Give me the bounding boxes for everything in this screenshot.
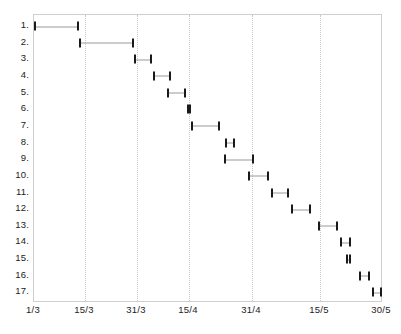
y-axis-tick-label: 14. (0, 236, 29, 246)
interval-spine (79, 43, 134, 44)
y-axis-tick-label: 17. (0, 286, 29, 296)
interval-start-cap (191, 121, 193, 130)
interval-bar[interactable] (191, 121, 220, 130)
interval-spine (271, 193, 289, 194)
interval-start-cap (225, 138, 227, 147)
y-axis: 1.2.3.4.5.6.7.8.9.10.11.12.13.14.15.16.1… (0, 14, 31, 302)
gantt-chart: 1.2.3.4.5.6.7.8.9.10.11.12.13.14.15.16.1… (0, 0, 401, 334)
interval-bar[interactable] (34, 22, 79, 31)
interval-end-cap (218, 121, 220, 130)
y-axis-tick-label: 13. (0, 220, 29, 230)
interval-start-cap (134, 55, 136, 64)
y-axis-tick-label: 7. (0, 120, 29, 130)
interval-bar[interactable] (372, 288, 382, 297)
x-axis-tick-label: 15/4 (178, 304, 197, 315)
interval-bar[interactable] (248, 171, 269, 180)
interval-bar[interactable] (346, 255, 351, 264)
interval-start-cap (187, 105, 189, 114)
x-axis-tick-label: 15/5 (309, 304, 328, 315)
interval-start-cap (318, 221, 320, 230)
x-axis: 1/315/331/315/431/415/530/5 (0, 304, 401, 320)
interval-start-cap (153, 71, 155, 80)
interval-start-cap (291, 205, 293, 214)
interval-end-cap (169, 71, 171, 80)
interval-spine (167, 93, 186, 94)
y-axis-tick-label: 11. (0, 187, 29, 197)
plot-area (33, 14, 382, 302)
interval-start-cap (224, 155, 226, 164)
interval-start-cap (340, 238, 342, 247)
interval-spine (224, 159, 254, 160)
interval-bar[interactable] (359, 271, 370, 280)
interval-end-cap (150, 55, 152, 64)
x-axis-tick-label: 30/5 (371, 304, 390, 315)
interval-end-cap (184, 88, 186, 97)
y-axis-tick-label: 6. (0, 103, 29, 113)
interval-start-cap (346, 255, 348, 264)
interval-start-cap (248, 171, 250, 180)
interval-end-cap (368, 271, 370, 280)
interval-bar[interactable] (153, 71, 171, 80)
interval-end-cap (349, 255, 351, 264)
interval-end-cap (349, 238, 351, 247)
interval-bar[interactable] (271, 188, 289, 197)
interval-start-cap (79, 38, 81, 47)
interval-bar[interactable] (318, 221, 338, 230)
interval-bar[interactable] (224, 155, 254, 164)
interval-bar[interactable] (225, 138, 235, 147)
y-axis-tick-label: 10. (0, 170, 29, 180)
interval-spine (318, 226, 338, 227)
interval-spine (291, 209, 311, 210)
y-axis-tick-label: 4. (0, 70, 29, 80)
interval-start-cap (359, 271, 361, 280)
y-axis-tick-label: 9. (0, 153, 29, 163)
interval-end-cap (132, 38, 134, 47)
interval-end-cap (252, 155, 254, 164)
interval-bar[interactable] (340, 238, 351, 247)
interval-end-cap (233, 138, 235, 147)
y-axis-tick-label: 12. (0, 203, 29, 213)
y-axis-tick-label: 16. (0, 270, 29, 280)
y-axis-tick-label: 8. (0, 137, 29, 147)
x-axis-tick-label: 31/3 (126, 304, 145, 315)
interval-start-cap (372, 288, 374, 297)
interval-spine (153, 76, 171, 77)
x-axis-tick-label: 31/4 (241, 304, 260, 315)
gridline-15-5 (320, 15, 321, 301)
interval-bar[interactable] (167, 88, 186, 97)
x-axis-tick-label: 1/3 (26, 304, 40, 315)
interval-end-cap (77, 22, 79, 31)
interval-end-cap (189, 105, 191, 114)
interval-end-cap (336, 221, 338, 230)
y-axis-tick-label: 3. (0, 53, 29, 63)
interval-spine (248, 176, 269, 177)
interval-bar[interactable] (187, 105, 191, 114)
interval-end-cap (267, 171, 269, 180)
interval-start-cap (34, 22, 36, 31)
interval-end-cap (287, 188, 289, 197)
y-axis-tick-label: 1. (0, 20, 29, 30)
y-axis-tick-label: 5. (0, 87, 29, 97)
interval-spine (191, 126, 220, 127)
interval-end-cap (380, 288, 382, 297)
interval-bar[interactable] (291, 205, 311, 214)
interval-bar[interactable] (79, 38, 134, 47)
gridline-15-3 (85, 15, 86, 301)
y-axis-tick-label: 15. (0, 253, 29, 263)
interval-start-cap (167, 88, 169, 97)
interval-spine (134, 59, 152, 60)
interval-start-cap (271, 188, 273, 197)
interval-spine (34, 26, 79, 27)
interval-bar[interactable] (134, 55, 152, 64)
interval-end-cap (309, 205, 311, 214)
gridline-15-4 (189, 15, 190, 301)
y-axis-tick-label: 2. (0, 37, 29, 47)
x-axis-tick-label: 15/3 (74, 304, 93, 315)
